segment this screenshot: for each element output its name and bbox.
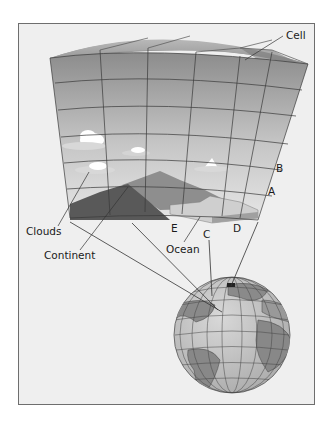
label-b: B (276, 163, 283, 174)
label-clouds: Clouds (26, 226, 61, 237)
label-continent: Continent (44, 250, 95, 261)
label-c: C (203, 229, 210, 240)
climate-grid-illustration (0, 0, 336, 425)
label-ocean: Ocean (166, 244, 200, 255)
label-d: D (233, 223, 241, 234)
label-a: A (268, 186, 275, 197)
label-e: E (171, 223, 178, 234)
label-cell: Cell (286, 30, 306, 41)
